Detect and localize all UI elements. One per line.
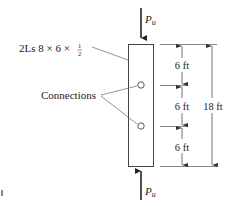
edge-artifact	[1, 190, 3, 196]
fraction-numerator: 1	[78, 42, 81, 49]
column-diagram: Pu 2Ls 8 × 6 × 1 2 Connections 6 ft 6 ft…	[0, 0, 233, 206]
top-load-label: Pu	[144, 13, 156, 27]
segment-label-2: 6 ft	[175, 101, 189, 112]
connections-leader-upper	[101, 86, 137, 95]
connection-lower	[138, 123, 144, 129]
segment-label-3: 6 ft	[175, 142, 189, 153]
column-member	[129, 45, 154, 167]
member-label: 2Ls 8 × 6 ×	[19, 42, 70, 54]
member-leader-line	[92, 47, 128, 60]
connection-upper	[138, 82, 144, 88]
connections-label: Connections	[41, 89, 96, 101]
bottom-load-label: Pu	[144, 185, 156, 199]
total-length-label: 18 ft	[203, 101, 223, 112]
segment-label-1: 6 ft	[175, 60, 189, 71]
fraction-denominator: 2	[78, 50, 81, 57]
connections-leader-lower	[101, 96, 137, 124]
